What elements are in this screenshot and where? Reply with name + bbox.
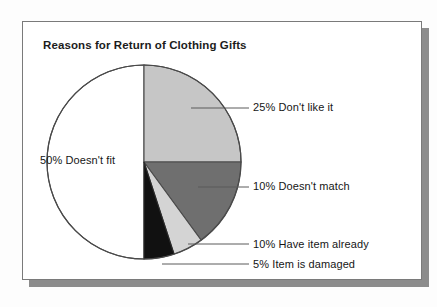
pie-label-doesnt-match: 10% Doesn't match <box>253 180 350 192</box>
figure-frame: Reasons for Return of Clothing Gifts 50%… <box>22 21 422 280</box>
pie-slice-dont-like-it[interactable] <box>144 65 241 162</box>
pie-chart: 50% Doesn't fit 25% Don't like it 10% Do… <box>23 22 423 281</box>
pie-label-doesnt-fit: 50% Doesn't fit <box>40 154 115 166</box>
pie-label-have-item-already: 10% Have item already <box>253 238 369 250</box>
pie-label-dont-like-it: 25% Don't like it <box>253 101 333 113</box>
pie-label-item-is-damaged: 5% Item is damaged <box>253 258 355 270</box>
